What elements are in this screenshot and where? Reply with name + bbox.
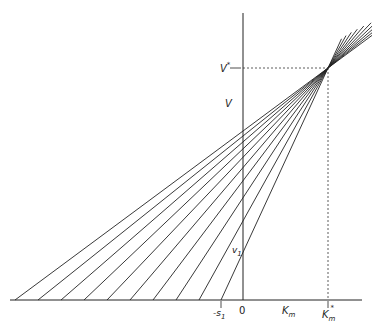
fan-line xyxy=(199,36,346,300)
neg-s1-label: -s1 xyxy=(213,308,225,321)
origin-label: 0 xyxy=(239,305,245,316)
direct-linear-plot: V* V v1 0 -s1 Km Km* xyxy=(0,0,375,327)
v1-label: v1 xyxy=(232,245,242,258)
v-star-label: V* xyxy=(220,61,231,74)
km-star-label: Km* xyxy=(322,304,336,323)
v-axis-label: V xyxy=(225,98,233,109)
km-axis-label: Km xyxy=(282,305,296,319)
fan-line xyxy=(221,39,342,300)
fan-lines xyxy=(15,23,372,300)
